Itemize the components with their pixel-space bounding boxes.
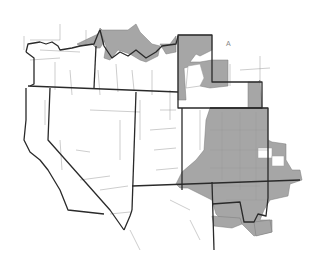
shaded-region-wyoming-east bbox=[248, 80, 262, 108]
unshaded-county bbox=[272, 156, 284, 166]
compass-label: A bbox=[226, 40, 231, 47]
shaded-region-wyoming-west bbox=[178, 35, 228, 100]
shaded-region-colorado bbox=[176, 108, 302, 236]
state-border-ca-nv bbox=[48, 88, 124, 230]
shaded-region-nm-2 bbox=[254, 220, 272, 236]
map-container: A bbox=[0, 0, 321, 272]
shaded-region-north-2 bbox=[100, 24, 160, 62]
coastline-california bbox=[24, 88, 104, 214]
unshaded-county bbox=[258, 148, 272, 158]
state-border-wa-or bbox=[26, 52, 34, 86]
state-border-or-id bbox=[94, 46, 96, 88]
state-border-colorado-river bbox=[124, 210, 132, 230]
shaded-region-nm-1 bbox=[212, 216, 242, 228]
western-us-county-map: A bbox=[0, 0, 321, 272]
state-border-nv-ut bbox=[132, 92, 136, 210]
